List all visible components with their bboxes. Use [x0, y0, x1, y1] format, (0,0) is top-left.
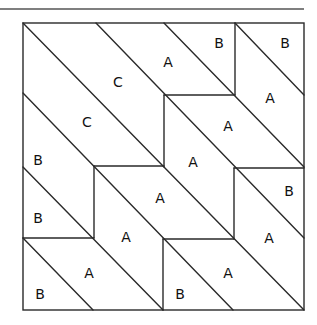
patch-label-a: A — [121, 230, 131, 244]
patch-label-a: A — [223, 119, 233, 133]
diagonal-seam — [23, 238, 93, 310]
patch-label-a: A — [84, 266, 94, 280]
patch-label-a: A — [188, 155, 198, 169]
quilt-diagram — [0, 0, 317, 325]
patch-label-a: A — [264, 231, 274, 245]
patch-label-a: A — [265, 91, 275, 105]
patch-label-c: C — [82, 115, 92, 129]
patch-label-b: B — [284, 184, 294, 198]
patch-label-b: B — [214, 36, 224, 50]
patch-label-a: A — [163, 55, 173, 69]
patch-label-b: B — [280, 36, 290, 50]
diagonal-seam — [96, 23, 304, 238]
patch-label-b: B — [33, 153, 43, 167]
patch-label-a: A — [155, 191, 165, 205]
patch-label-c: C — [113, 75, 123, 89]
patch-label-b: B — [175, 287, 185, 301]
diagonal-seam — [235, 23, 304, 95]
patch-label-b: B — [33, 211, 43, 225]
patch-label-b: B — [35, 287, 45, 301]
patch-label-a: A — [223, 266, 233, 280]
diagonal-seam — [23, 93, 233, 310]
